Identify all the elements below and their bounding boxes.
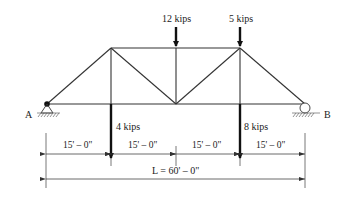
panel-dimensions: 15' – 0" 15' – 0" 15' – 0" 15' – 0"	[46, 140, 305, 154]
load-12-kips: 12 kips	[162, 13, 191, 46]
truss-members	[47, 48, 305, 104]
load-label: 4 kips	[116, 121, 140, 132]
right-end-diagonal	[240, 48, 305, 104]
left-end-diagonal	[47, 48, 111, 104]
overall-dimension-label: L = 60' – 0"	[152, 165, 199, 176]
inner-diagonal-right	[176, 48, 240, 104]
inner-diagonal-left	[111, 48, 176, 104]
support-b-label: B	[324, 109, 331, 120]
load-5-kips: 5 kips	[229, 13, 253, 46]
panel-dimension-label: 15' – 0"	[256, 140, 285, 150]
panel-dimension-label: 15' – 0"	[128, 140, 157, 150]
load-label: 8 kips	[244, 121, 268, 132]
support-a-label: A	[25, 109, 33, 120]
truss-diagram: A B 12 kips 5 kips 4 kips 8 kips	[0, 0, 349, 202]
panel-dimension-label: 15' – 0"	[192, 140, 221, 150]
overall-dimension: L = 60' – 0"	[46, 165, 305, 179]
roller-icon	[300, 103, 310, 113]
load-label: 12 kips	[162, 13, 191, 24]
load-label: 5 kips	[229, 13, 253, 24]
roller-support-b: B	[292, 103, 331, 120]
panel-dimension-label: 15' – 0"	[63, 140, 92, 150]
